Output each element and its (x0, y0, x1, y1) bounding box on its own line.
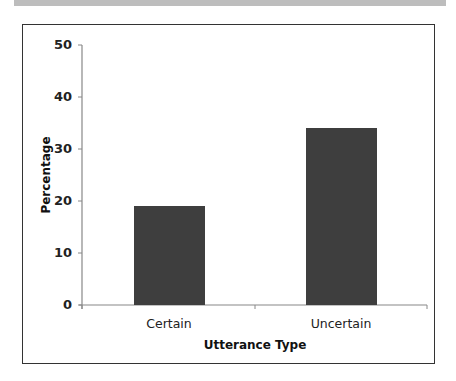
x-axis-title: Utterance Type (155, 338, 355, 352)
bar-uncertain (306, 128, 377, 305)
x-tick-label-uncertain: Uncertain (281, 316, 401, 331)
y-tick-label-40: 40 (42, 89, 72, 104)
x-tick-label-certain: Certain (109, 316, 229, 331)
y-tick-label-50: 50 (42, 37, 72, 52)
bar-certain (134, 206, 205, 305)
y-tick-label-10: 10 (42, 245, 72, 260)
y-axis-title: Percentage (39, 130, 53, 220)
y-tick-label-0: 0 (42, 297, 72, 312)
